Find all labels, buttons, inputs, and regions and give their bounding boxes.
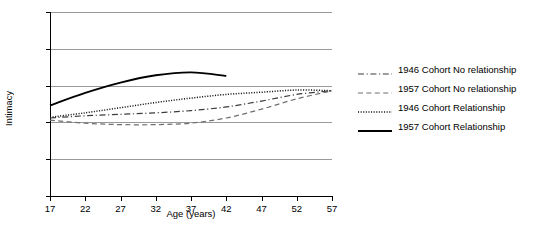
dashed-line-icon xyxy=(358,84,392,94)
series-lines xyxy=(50,12,332,196)
legend-label: 1946 Cohort No relationship xyxy=(398,64,516,75)
legend-label: 1957 Cohort No relationship xyxy=(398,83,516,94)
x-axis-line xyxy=(50,196,333,197)
x-axis-label: Age (years) xyxy=(50,208,332,219)
chart-plot-area-container: Intimacy 0510152025 172227323742475257 A… xyxy=(0,0,355,232)
legend-item[interactable]: 1957 Cohort No relationship xyxy=(358,79,536,98)
legend-item[interactable]: 1946 Cohort Relationship xyxy=(358,98,536,117)
legend-label: 1946 Cohort Relationship xyxy=(398,102,505,113)
legend-label: 1957 Cohort Relationship xyxy=(398,121,505,132)
plot-area: 0510152025 172227323742475257 xyxy=(50,12,332,196)
series-line xyxy=(50,91,332,118)
legend-item[interactable]: 1946 Cohort No relationship xyxy=(358,60,536,79)
series-line xyxy=(50,72,226,105)
y-axis-label: Intimacy xyxy=(2,66,16,150)
legend: 1946 Cohort No relationship1957 Cohort N… xyxy=(358,60,536,136)
solid-line-icon xyxy=(358,122,392,132)
legend-item[interactable]: 1957 Cohort Relationship xyxy=(358,117,536,136)
dotted-line-icon xyxy=(358,103,392,113)
chart-figure: Intimacy 0510152025 172227323742475257 A… xyxy=(0,0,537,232)
dash-dot-line-icon xyxy=(358,65,392,75)
series-line xyxy=(50,90,332,117)
